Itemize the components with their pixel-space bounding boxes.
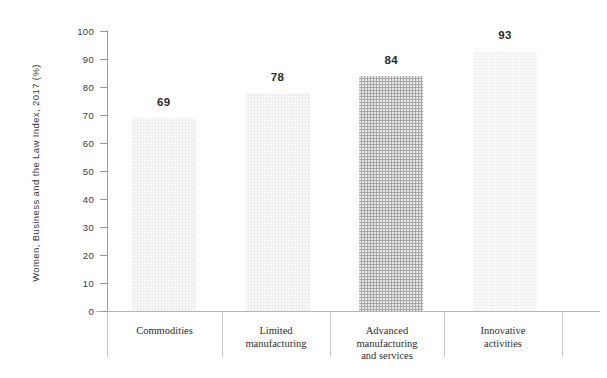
bar-texture — [246, 93, 310, 311]
bar-value-label-2: 78 — [271, 71, 285, 83]
bar-chart-figure: Women, Business and the Law Index, 2017 … — [0, 0, 607, 378]
category-label-line: manufacturing — [330, 338, 444, 351]
bar-4 — [473, 51, 537, 311]
bar-texture — [473, 51, 537, 311]
bar-value-label-1: 69 — [157, 96, 171, 108]
category-label-line: Advanced — [330, 325, 444, 338]
bar-value-label-4: 93 — [498, 29, 512, 41]
category-axis-band: CommoditiesLimitedmanufacturingAdvancedm… — [96, 311, 600, 357]
category-label-1: Commodities — [107, 325, 222, 338]
category-label-3: Advancedmanufacturingand services — [330, 325, 444, 363]
category-label-4: Innovativeactivities — [444, 325, 562, 350]
category-label-line: Limited — [222, 325, 330, 338]
bar-3 — [359, 76, 423, 311]
category-label-line: activities — [444, 338, 562, 351]
bar-2 — [246, 93, 310, 311]
bar-texture — [359, 76, 423, 311]
category-label-line: Commodities — [107, 325, 222, 338]
category-label-2: Limitedmanufacturing — [222, 325, 330, 350]
category-label-line: manufacturing — [222, 338, 330, 351]
bar-value-label-3: 84 — [385, 54, 399, 66]
category-label-line: Innovative — [444, 325, 562, 338]
bar-texture — [132, 118, 196, 311]
bars-layer: 69788493 — [0, 0, 607, 311]
category-separator — [562, 312, 563, 357]
category-label-line: and services — [330, 350, 444, 363]
bar-1 — [132, 118, 196, 311]
